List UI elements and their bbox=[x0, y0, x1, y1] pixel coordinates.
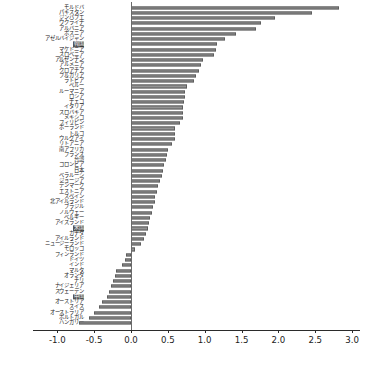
bar bbox=[131, 243, 141, 246]
bar bbox=[131, 38, 225, 41]
bar bbox=[107, 295, 131, 298]
plot-area: モルドバパキスタンジンバブエウクライナアルバニアボスニアアゼルバイジャン韓国マケ… bbox=[0, 0, 371, 330]
x-tick-label: 2.5 bbox=[308, 336, 322, 345]
bar bbox=[131, 143, 172, 146]
bar bbox=[89, 316, 131, 319]
bar bbox=[131, 27, 256, 30]
bar bbox=[131, 6, 339, 9]
bar bbox=[131, 111, 183, 114]
bar bbox=[131, 11, 312, 14]
bar bbox=[131, 148, 168, 151]
bar bbox=[131, 237, 144, 240]
x-tick-mark bbox=[315, 330, 316, 333]
bar bbox=[131, 95, 185, 98]
bar bbox=[131, 85, 187, 88]
bar bbox=[113, 279, 131, 282]
bar bbox=[131, 53, 214, 56]
bar bbox=[131, 201, 155, 204]
bar bbox=[131, 153, 167, 156]
bar bbox=[131, 69, 199, 72]
x-tick-label: 3.0 bbox=[345, 336, 359, 345]
bar bbox=[131, 137, 175, 140]
bar bbox=[131, 185, 158, 188]
bar bbox=[131, 16, 275, 19]
bar bbox=[99, 306, 131, 309]
bar bbox=[131, 169, 163, 172]
x-tick-label: 1.0 bbox=[198, 336, 212, 345]
bar bbox=[131, 190, 157, 193]
x-tick-label: 0.0 bbox=[124, 336, 138, 345]
x-tick-label: 0.5 bbox=[161, 336, 175, 345]
bar bbox=[111, 285, 131, 288]
bar bbox=[131, 59, 203, 62]
bar-chart: モルドバパキスタンジンバブエウクライナアルバニアボスニアアゼルバイジャン韓国マケ… bbox=[0, 0, 371, 367]
x-tick-mark bbox=[205, 330, 206, 333]
bar-row: ハンガリー bbox=[0, 321, 371, 326]
bar bbox=[79, 322, 131, 325]
bar bbox=[131, 74, 196, 77]
bar bbox=[131, 90, 185, 93]
x-tick-mark bbox=[94, 330, 95, 333]
bar bbox=[115, 274, 131, 277]
bar bbox=[131, 174, 162, 177]
bar bbox=[122, 264, 131, 267]
x-tick-mark bbox=[131, 330, 132, 333]
x-tick-mark bbox=[278, 330, 279, 333]
bar bbox=[109, 290, 131, 293]
x-tick-label: 2.0 bbox=[272, 336, 286, 345]
bar bbox=[131, 43, 217, 46]
x-tick-mark bbox=[168, 330, 169, 333]
bar bbox=[131, 206, 153, 209]
bar bbox=[131, 180, 160, 183]
x-tick-mark bbox=[352, 330, 353, 333]
x-tick-mark bbox=[242, 330, 243, 333]
bar bbox=[131, 195, 155, 198]
bar bbox=[131, 164, 164, 167]
bar bbox=[131, 216, 150, 219]
bar bbox=[131, 22, 261, 25]
bar bbox=[131, 116, 183, 119]
x-tick-mark bbox=[57, 330, 58, 333]
bar bbox=[131, 127, 175, 130]
bar bbox=[94, 311, 131, 314]
bar bbox=[131, 64, 201, 67]
x-tick-label: -0.5 bbox=[86, 336, 103, 345]
bar bbox=[131, 48, 216, 51]
bar bbox=[131, 159, 166, 162]
bar bbox=[131, 32, 236, 35]
x-tick-label: -1.0 bbox=[49, 336, 66, 345]
bar bbox=[116, 269, 131, 272]
bar bbox=[131, 80, 194, 83]
bar bbox=[131, 106, 183, 109]
bar bbox=[131, 122, 180, 125]
zero-baseline bbox=[131, 2, 132, 330]
bar bbox=[131, 232, 146, 235]
bar bbox=[131, 227, 148, 230]
bar bbox=[131, 222, 149, 225]
x-axis-line bbox=[33, 330, 360, 331]
bar bbox=[102, 301, 131, 304]
bar bbox=[131, 132, 175, 135]
bar bbox=[131, 101, 184, 104]
bar bbox=[131, 211, 152, 214]
x-tick-label: 1.5 bbox=[235, 336, 249, 345]
